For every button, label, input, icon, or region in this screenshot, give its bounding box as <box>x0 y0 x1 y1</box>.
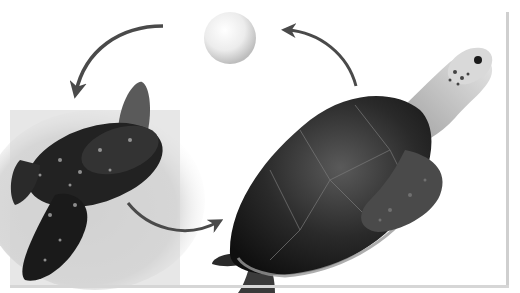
life-cycle-diagram <box>0 0 520 293</box>
egg-icon <box>204 12 256 64</box>
hatchling-turtle-icon <box>0 82 205 290</box>
frame-border-right <box>506 12 509 288</box>
arrow-adult-to-egg <box>287 30 356 86</box>
arrow-egg-to-hatchling <box>76 26 163 92</box>
adult-sea-turtle-icon <box>212 40 499 293</box>
frame-border-bottom <box>10 285 509 288</box>
